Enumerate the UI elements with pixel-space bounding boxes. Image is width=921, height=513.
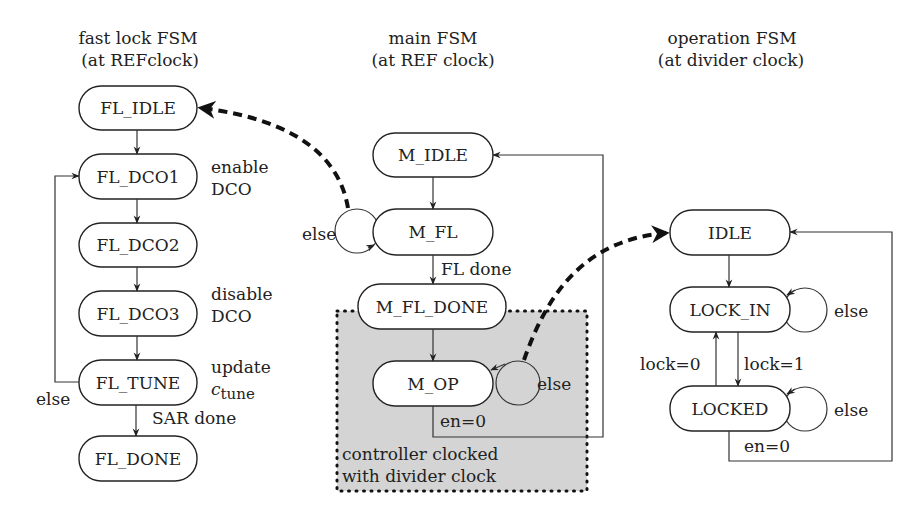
self-loop-lock-in-arrow: [787, 290, 795, 295]
state-fl-done: FL_DONE: [79, 436, 197, 481]
state-label: M_IDLE: [398, 145, 468, 165]
ctune-base: c: [211, 379, 221, 399]
state-fl-tune: FL_TUNE: [79, 360, 197, 405]
annotation-ctune: ctune: [211, 379, 255, 403]
region-label-line2: with divider clock: [342, 466, 497, 486]
main-title-line1: main FSM: [389, 28, 478, 48]
state-label: FL_DCO3: [97, 304, 180, 324]
self-loop-locked-arrow: [787, 389, 795, 394]
state-fl-dco2: FL_DCO2: [79, 223, 197, 267]
region-label-line1: controller clocked: [342, 444, 498, 464]
main-title-line2: (at REF clock): [371, 50, 494, 70]
label-m-op-en0: en=0: [440, 411, 486, 431]
state-label: M_FL_DONE: [376, 297, 488, 317]
fsm-diagram: controller clocked with divider clock fa…: [0, 0, 921, 513]
fast-lock-title-line1: fast lock FSM: [78, 28, 197, 48]
annotation-enable: enable: [211, 157, 269, 177]
state-m-idle: M_IDLE: [373, 133, 493, 177]
state-fl-dco1: FL_DCO1: [79, 154, 197, 199]
label-locked-else: else: [834, 400, 868, 420]
state-label: FL_TUNE: [96, 373, 181, 393]
fast-lock-title-line2: (at REFclock): [81, 50, 199, 70]
label-locked-en0: en=0: [744, 436, 790, 456]
state-label: FL_DCO2: [97, 235, 180, 255]
label-tune-else: else: [36, 389, 70, 409]
annotation-enable-dco: DCO: [211, 179, 252, 199]
state-fl-idle: FL_IDLE: [79, 86, 197, 130]
state-locked: LOCKED: [670, 386, 790, 431]
state-label: IDLE: [708, 223, 752, 243]
state-label: FL_IDLE: [100, 98, 176, 118]
edge-tune-else-to-dco1: [55, 176, 79, 382]
annotation-update: update: [211, 357, 271, 377]
state-label: FL_DCO1: [97, 167, 180, 187]
annotation-disable: disable: [211, 284, 273, 304]
state-label: M_FL: [409, 222, 458, 242]
label-fl-done: FL done: [441, 259, 512, 279]
state-lock-in: LOCK_IN: [670, 287, 790, 332]
label-lock1: lock=1: [744, 354, 805, 374]
label-lock-in-else: else: [834, 301, 868, 321]
label-lock0: lock=0: [640, 354, 701, 374]
state-label: FL_DONE: [95, 449, 181, 469]
operation-title-line1: operation FSM: [667, 28, 796, 48]
annotation-disable-dco: DCO: [211, 306, 252, 326]
label-m-fl-else: else: [302, 224, 336, 244]
state-m-op: M_OP: [373, 361, 493, 406]
state-idle: IDLE: [670, 210, 790, 255]
state-fl-dco3: FL_DCO3: [79, 291, 197, 336]
state-label: M_OP: [407, 374, 458, 394]
state-m-fl: M_FL: [373, 209, 493, 255]
state-label: LOCK_IN: [689, 300, 770, 320]
state-m-fl-done: M_FL_DONE: [358, 284, 506, 329]
label-sar-done: SAR done: [152, 408, 236, 428]
state-label: LOCKED: [692, 399, 769, 419]
ctune-sub: tune: [221, 385, 255, 403]
operation-title-line2: (at divider clock): [658, 50, 804, 70]
label-m-op-else: else: [537, 374, 571, 394]
